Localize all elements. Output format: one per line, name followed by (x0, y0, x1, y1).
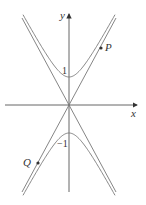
tick-label-1: 1 (62, 65, 67, 76)
point-q-label: Q (23, 156, 31, 168)
point-p-label: P (104, 41, 112, 53)
point-q (36, 161, 39, 164)
hyperbola-diagram: y x P Q 1 −1 (0, 0, 146, 205)
tick-label-minus-1: −1 (57, 138, 68, 149)
y-axis-label: y (59, 9, 65, 21)
point-p (99, 46, 102, 49)
x-axis-label: x (130, 107, 136, 119)
